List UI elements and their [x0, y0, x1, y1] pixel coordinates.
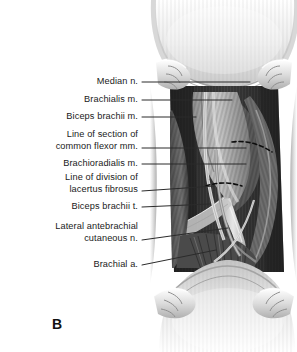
label-brachialis-muscle: Brachialis m.	[84, 94, 138, 106]
dissection-illustration	[150, 0, 297, 352]
label-biceps-brachii-muscle: Biceps brachii m.	[66, 111, 138, 123]
label-line: Line of section of	[56, 129, 138, 141]
label-line: Biceps brachii m.	[66, 111, 138, 123]
label-line: Lateral antebrachial	[55, 221, 138, 233]
label-line: Line of division of	[65, 172, 138, 184]
label-line-of-section-of-common-flexor-muscles: Line of section ofcommon flexor mm.	[56, 129, 138, 152]
label-brachial-artery: Brachial a.	[93, 259, 138, 271]
label-line: Brachialis m.	[84, 94, 138, 106]
label-brachioradialis-muscle: Brachioradialis m.	[63, 158, 138, 170]
label-line: Brachial a.	[93, 259, 138, 271]
retractor-lower-right	[253, 289, 294, 319]
label-line: Brachioradialis m.	[63, 158, 138, 170]
panel-letter-b: B	[52, 316, 63, 332]
label-line-of-division-of-lacertus-fibrosus: Line of division oflacertus fibrosus	[65, 172, 138, 195]
label-line: lacertus fibrosus	[65, 184, 138, 196]
anatomy-figure-panel: Median n.Brachialis m.Biceps brachii m.L…	[0, 0, 297, 352]
label-line: Biceps brachii t.	[71, 201, 138, 213]
label-lateral-antebrachial-cutaneous-nerve: Lateral antebrachialcutaneous n.	[55, 221, 138, 244]
label-line: Median n.	[97, 76, 138, 88]
retractor-lower-left	[154, 289, 195, 319]
label-biceps-brachii-tendon: Biceps brachii t.	[71, 201, 138, 213]
label-median-nerve: Median n.	[97, 76, 138, 88]
label-line: cutaneous n.	[55, 233, 138, 245]
label-line: common flexor mm.	[56, 141, 138, 153]
